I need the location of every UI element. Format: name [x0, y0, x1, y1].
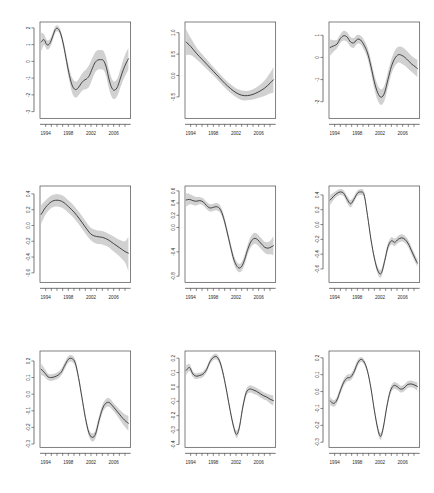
y-tick-label: -0.6 [26, 269, 31, 277]
panel-6-svg: 19941998200220060.40.20.0-0.2-0.4-0.6 [289, 164, 434, 328]
panel-5-svg: 19941998200220060.60.40.20.0-0.4-0.8 [145, 164, 290, 328]
panel-9-svg: 19941998200220060.20.10.0-0.1-0.2-0.3 [289, 329, 434, 493]
confidence-band [186, 353, 273, 437]
panel-1-svg: 1994199820022006210-1-2-3 [0, 0, 145, 164]
fit-line [330, 192, 417, 274]
panel-7-svg: 19941998200220060.20.10.0-0.1-0.2-0.3 [0, 329, 145, 493]
y-tick-label: -0.4 [171, 440, 176, 448]
panel-3-svg: 199419982002200610-1-2 [289, 0, 434, 164]
x-tick-label: 2002 [231, 295, 242, 300]
y-tick-label: 0.0 [316, 388, 321, 395]
x-tick-label: 2002 [231, 131, 242, 136]
y-tick-label: -0.4 [171, 248, 176, 256]
plot-frame [185, 351, 276, 447]
confidence-band [41, 194, 128, 271]
y-tick-label: -0.4 [26, 253, 31, 261]
y-tick-label: 0.4 [316, 192, 321, 199]
x-tick-label: 1994 [41, 131, 52, 136]
x-tick-label: 1998 [63, 295, 74, 300]
panel-2: 19941998200220061.00.50.0-0.5 [145, 0, 290, 164]
y-tick-label: -0.2 [26, 423, 31, 431]
fit-line [330, 359, 417, 436]
x-tick-label: 1998 [208, 459, 219, 464]
confidence-band [330, 357, 417, 440]
x-tick-label: 1998 [208, 295, 219, 300]
panel-grid: 1994199820022006210-1-2-3 19941998200220… [0, 0, 434, 493]
x-tick-label: 1994 [330, 131, 341, 136]
confidence-band [41, 25, 128, 99]
panel-7: 19941998200220060.20.10.0-0.1-0.2-0.3 [0, 329, 145, 493]
panel-9: 19941998200220060.20.10.0-0.1-0.2-0.3 [289, 329, 434, 493]
y-tick-label: 0.5 [171, 50, 176, 57]
confidence-band [41, 355, 128, 442]
x-tick-label: 2006 [398, 131, 409, 136]
plot-frame [329, 186, 420, 282]
plot-frame [40, 351, 131, 447]
y-tick-label: 0.2 [316, 354, 321, 361]
x-tick-label: 2006 [109, 295, 120, 300]
confidence-band [330, 189, 417, 278]
y-tick-label: -0.3 [26, 439, 31, 447]
y-tick-label: 0.4 [26, 191, 31, 198]
x-tick-label: 1994 [330, 459, 341, 464]
plot-frame [185, 22, 276, 118]
y-tick-label: -0.2 [316, 235, 321, 243]
fit-line [41, 201, 128, 254]
panel-8-svg: 19941998200220060.20.10.0-0.1-0.2-0.3-0.… [145, 329, 290, 493]
y-tick-label: 0.1 [26, 374, 31, 381]
x-tick-label: 1994 [185, 459, 196, 464]
panel-8: 19941998200220060.20.10.0-0.1-0.2-0.3-0.… [145, 329, 290, 493]
x-tick-label: 1998 [63, 459, 74, 464]
x-tick-label: 1998 [353, 131, 364, 136]
x-tick-label: 1994 [41, 295, 52, 300]
y-tick-label: 0.1 [316, 371, 321, 378]
y-tick-label: 1 [26, 43, 31, 46]
figure-panel-grid: 1994199820022006210-1-2-3 19941998200220… [0, 0, 434, 493]
x-tick-label: 2002 [86, 131, 97, 136]
confidence-band [330, 31, 417, 105]
y-tick-label: -1 [316, 77, 321, 82]
y-tick-label: 0.0 [26, 390, 31, 397]
y-tick-label: -2 [26, 92, 31, 97]
confidence-band [186, 29, 273, 100]
y-tick-label: -3 [26, 109, 31, 114]
y-tick-label: 0.0 [26, 222, 31, 229]
y-tick-label: 0 [316, 56, 321, 59]
x-tick-label: 1998 [353, 295, 364, 300]
y-tick-label: -2 [316, 99, 321, 104]
y-tick-label: -0.1 [171, 397, 176, 405]
y-tick-label: -0.5 [171, 93, 176, 101]
y-tick-label: 0.0 [171, 383, 176, 390]
x-tick-label: 2006 [398, 295, 409, 300]
confidence-band [186, 194, 273, 273]
panel-6: 19941998200220060.40.20.0-0.2-0.4-0.6 [289, 164, 434, 328]
x-tick-label: 1994 [330, 295, 341, 300]
y-tick-label: 0.6 [171, 188, 176, 195]
panel-5: 19941998200220060.60.40.20.0-0.4-0.8 [145, 164, 290, 328]
panel-3: 199419982002200610-1-2 [289, 0, 434, 164]
y-tick-label: -0.8 [171, 272, 176, 280]
x-tick-label: 2002 [375, 131, 386, 136]
x-tick-label: 2006 [398, 459, 409, 464]
y-tick-label: -0.2 [171, 411, 176, 419]
plot-frame [329, 351, 420, 447]
y-tick-label: 1 [316, 34, 321, 37]
y-tick-label: -1 [26, 76, 31, 81]
x-tick-label: 1998 [208, 131, 219, 136]
x-tick-label: 2006 [253, 459, 264, 464]
panel-4: 19941998200220060.40.20.0-0.2-0.4-0.6 [0, 164, 145, 328]
x-tick-label: 2002 [231, 459, 242, 464]
fit-line [186, 200, 273, 269]
x-tick-label: 1998 [63, 131, 74, 136]
panel-1: 1994199820022006210-1-2-3 [0, 0, 145, 164]
x-tick-label: 1994 [185, 131, 196, 136]
y-tick-label: 2 [26, 26, 31, 29]
panel-2-svg: 19941998200220061.00.50.0-0.5 [145, 0, 290, 164]
y-tick-label: 0 [26, 60, 31, 63]
fit-line [330, 36, 417, 98]
x-tick-label: 2006 [109, 131, 120, 136]
x-tick-label: 2002 [375, 295, 386, 300]
x-tick-label: 2006 [109, 459, 120, 464]
y-tick-label: 0.2 [26, 357, 31, 364]
y-tick-label: 0.0 [316, 221, 321, 228]
